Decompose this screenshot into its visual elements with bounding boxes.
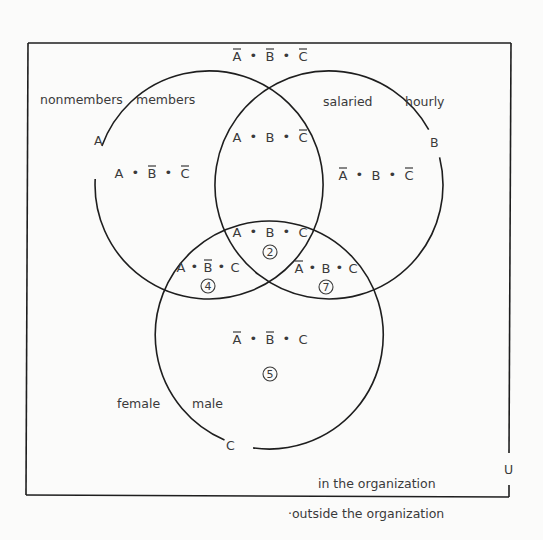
region-term: B bbox=[322, 261, 331, 276]
region-term: C bbox=[299, 332, 308, 347]
and-dot: • bbox=[283, 48, 291, 63]
and-dot: • bbox=[336, 260, 344, 275]
and-dot: • bbox=[132, 165, 140, 180]
region-term: A bbox=[233, 332, 242, 347]
set-label-c: C bbox=[226, 438, 235, 453]
region-term: C bbox=[299, 225, 308, 240]
set-a-inside-label: members bbox=[136, 92, 195, 107]
universe-box bbox=[26, 43, 511, 497]
and-dot: • bbox=[389, 167, 397, 182]
set-b-outside-label: hourly bbox=[405, 94, 445, 109]
region-b-only: A•B•C bbox=[339, 167, 414, 183]
set-c-inside-label: male bbox=[192, 396, 223, 411]
region-term: B bbox=[266, 49, 275, 64]
region-term: C bbox=[405, 168, 414, 183]
region-number: 7 bbox=[323, 281, 330, 294]
region-term: C bbox=[299, 49, 308, 64]
universe-outside-label: ·outside the organization bbox=[288, 506, 444, 521]
region-term: C bbox=[231, 260, 240, 275]
region-ab: A•B•C bbox=[233, 129, 308, 145]
region-number: 5 bbox=[267, 368, 274, 381]
region-number: 2 bbox=[267, 246, 274, 259]
universe-inside-label: in the organization bbox=[318, 476, 436, 491]
region-abc: A•B•C2 bbox=[233, 224, 308, 259]
and-dot: • bbox=[309, 260, 317, 275]
universe-bottom-edge bbox=[26, 495, 509, 497]
and-dot: • bbox=[165, 165, 173, 180]
region-term: C bbox=[181, 166, 190, 181]
region-term: B bbox=[266, 225, 275, 240]
region-term: A bbox=[339, 168, 348, 183]
region-ac: A•B•C4 bbox=[177, 259, 240, 293]
and-dot: • bbox=[283, 224, 291, 239]
and-dot: • bbox=[283, 129, 291, 144]
universe-right-edge-upper bbox=[509, 43, 511, 453]
set-a-outside-label: nonmembers bbox=[40, 92, 123, 107]
region-term: B bbox=[204, 260, 213, 275]
region-term: A bbox=[295, 261, 304, 276]
and-dot: • bbox=[250, 129, 258, 144]
region-term: C bbox=[349, 261, 358, 276]
region-term: A bbox=[233, 49, 242, 64]
set-label-b: B bbox=[430, 135, 439, 150]
region-term: B bbox=[266, 130, 275, 145]
region-term: B bbox=[266, 332, 275, 347]
region-c-only: A•B•C5 bbox=[233, 331, 308, 381]
set-c-outside-label: female bbox=[117, 396, 160, 411]
set-label-a: A bbox=[94, 133, 103, 148]
and-dot: • bbox=[356, 167, 364, 182]
universe-left-edge bbox=[26, 43, 28, 495]
and-dot: • bbox=[250, 224, 258, 239]
and-dot: • bbox=[250, 331, 258, 346]
venn-diagram: A B C U nonmembers members salaried hour… bbox=[0, 0, 543, 540]
region-term: B bbox=[372, 168, 381, 183]
region-term: A bbox=[177, 260, 186, 275]
region-term: A bbox=[233, 130, 242, 145]
region-term: C bbox=[299, 130, 308, 145]
region-bc: A•B•C7 bbox=[295, 260, 358, 294]
region-term: A bbox=[115, 166, 124, 181]
region-term: B bbox=[148, 166, 157, 181]
region-none: A•B•C bbox=[233, 48, 308, 64]
region-number: 4 bbox=[205, 280, 212, 293]
region-term: A bbox=[233, 225, 242, 240]
and-dot: • bbox=[191, 259, 199, 274]
universe-label: U bbox=[504, 462, 513, 477]
and-dot: • bbox=[250, 48, 258, 63]
region-a-only: A•B•C bbox=[115, 165, 190, 181]
and-dot: • bbox=[283, 331, 291, 346]
and-dot: • bbox=[218, 259, 226, 274]
set-b-inside-label: salaried bbox=[323, 94, 373, 109]
